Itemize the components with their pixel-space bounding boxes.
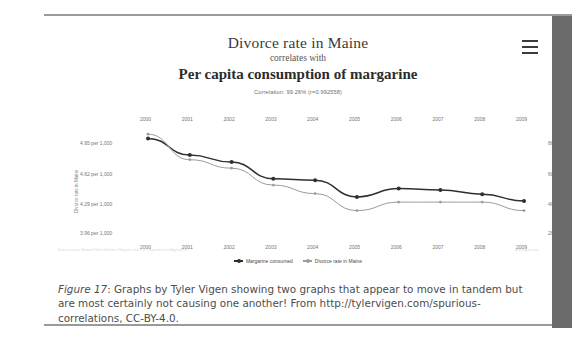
x-tick-label: 2003 — [265, 244, 276, 250]
data-point-marker[interactable] — [272, 184, 275, 187]
data-point-marker[interactable] — [313, 178, 317, 182]
legend-item-divorce[interactable]: Divorce rate in Maine — [303, 258, 362, 264]
data-point-marker[interactable] — [522, 199, 526, 203]
data-point-marker[interactable] — [480, 192, 484, 196]
y-axis-title-left: Divorce rate in Maine — [74, 170, 79, 213]
data-point-marker[interactable] — [397, 187, 401, 191]
data-point-marker[interactable] — [439, 201, 442, 204]
legend-swatch-margarine-icon — [234, 260, 243, 261]
x-tick-label: 2006 — [391, 244, 402, 250]
data-point-marker[interactable] — [314, 192, 317, 195]
data-point-marker[interactable] — [188, 158, 191, 161]
chart-correlation-annotation: Correlation: 99.26% (r=0.992558) — [44, 89, 552, 95]
data-point-marker[interactable] — [230, 160, 234, 164]
data-point-marker[interactable] — [438, 188, 442, 192]
data-point-marker[interactable] — [146, 136, 150, 140]
data-point-marker[interactable] — [523, 209, 526, 212]
legend-label-divorce: Divorce rate in Maine — [315, 258, 362, 264]
figure-caption-text: Graphs by Tyler Vigen showing two graphs… — [58, 283, 522, 324]
chart-subtitle: Per capita consumption of margarine — [44, 66, 552, 83]
figure-container: Divorce rate in Maine correlates with Pe… — [44, 14, 552, 326]
series-line — [148, 134, 524, 210]
chart-title: Divorce rate in Maine — [44, 34, 552, 52]
data-point-marker[interactable] — [356, 209, 359, 212]
x-tick-label: 2001 — [182, 116, 193, 122]
y-tick-label-left: 4.62 per 1,000 — [80, 171, 112, 177]
x-tick-label: 2007 — [432, 116, 443, 122]
figure-number: Figure 17 — [58, 283, 107, 295]
x-tick-label: 2007 — [432, 244, 443, 250]
chart-title-connector: correlates with — [44, 53, 552, 63]
series-line — [148, 138, 524, 201]
x-tick-label: 2004 — [307, 244, 318, 250]
legend-item-margarine[interactable]: Margarine consumed — [234, 258, 293, 264]
data-point-marker[interactable] — [230, 167, 233, 170]
source-note-left: Data sources: National Vital Statistics … — [58, 248, 188, 252]
chart-card: Divorce rate in Maine correlates with Pe… — [44, 18, 552, 276]
x-tick-label: 2002 — [224, 116, 235, 122]
x-tick-label: 2008 — [474, 244, 485, 250]
x-tick-label: 2002 — [224, 244, 235, 250]
x-tick-label: 2000 — [140, 116, 151, 122]
x-tick-label: 2005 — [349, 116, 360, 122]
y-tick-label-right: 4lbs — [548, 201, 552, 207]
y-tick-label-right: 2lbs — [548, 230, 552, 236]
source-note-right: tylervigen.com — [515, 248, 538, 252]
data-point-marker[interactable] — [355, 195, 359, 199]
y-tick-label-left: 3.96 per 1,000 — [80, 230, 112, 236]
x-tick-label: 2004 — [307, 116, 318, 122]
y-tick-label-left: 4.95 per 1,000 — [80, 140, 112, 146]
legend-label-margarine: Margarine consumed — [246, 258, 293, 264]
y-tick-label-right: 6lbs — [548, 171, 552, 177]
data-point-marker[interactable] — [147, 133, 150, 136]
figure-caption: Figure 17: Graphs by Tyler Vigen showing… — [58, 282, 524, 325]
data-point-marker[interactable] — [397, 201, 400, 204]
x-tick-label: 2005 — [349, 244, 360, 250]
data-point-marker[interactable] — [271, 177, 275, 181]
x-tick-label: 2009 — [516, 116, 527, 122]
figure-side-bar — [552, 16, 572, 328]
y-tick-label-right: 8lbs — [548, 140, 552, 146]
x-tick-label: 2008 — [474, 116, 485, 122]
x-tick-label: 2006 — [391, 116, 402, 122]
hamburger-menu-icon[interactable] — [522, 40, 538, 54]
data-point-marker[interactable] — [481, 201, 484, 204]
legend-swatch-divorce-icon — [303, 260, 312, 261]
chart-legend: Margarine consumed Divorce rate in Maine — [44, 258, 552, 264]
x-tick-label: 2003 — [265, 116, 276, 122]
data-point-marker[interactable] — [188, 153, 192, 157]
y-tick-label-left: 4.29 per 1,000 — [80, 201, 112, 207]
